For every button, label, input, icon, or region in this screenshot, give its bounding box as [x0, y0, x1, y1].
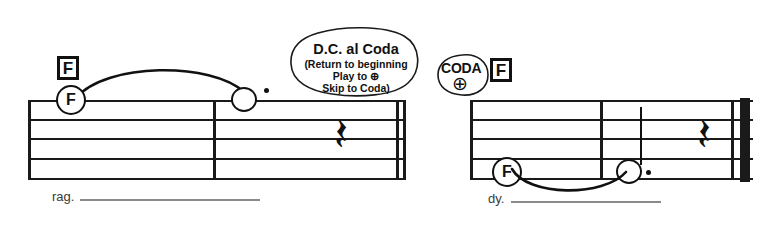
- sheet-music-page: F F 𝄽 rag. D.C. al Coda (Return to begin…: [0, 0, 781, 226]
- left-staff: [28, 100, 405, 180]
- final-barline-thin: [731, 100, 734, 180]
- staff-start-barline: [28, 100, 31, 180]
- note-stem-right: [640, 107, 642, 165]
- bubble-lines: (Return to beginning Play to ⊕ Skip to C…: [288, 58, 424, 94]
- bubble-line-2: Play to ⊕: [288, 70, 424, 82]
- augmentation-dot-left: [264, 88, 269, 93]
- lyric-extender-right: [511, 201, 661, 203]
- coda-sign-glyph: ⊕: [452, 72, 468, 94]
- end-barline-thin-1: [396, 100, 399, 180]
- lyric-left-text: rag.: [52, 189, 74, 204]
- lyric-right: dy.: [488, 191, 504, 206]
- lyric-extender-left: [80, 199, 260, 201]
- quarter-rest-right: 𝄽: [697, 111, 711, 157]
- bubble-line-3: Skip to Coda): [288, 82, 424, 94]
- bubble-title: D.C. al Coda: [288, 41, 424, 57]
- measure-barline: [213, 100, 216, 180]
- half-notehead-left: [231, 87, 257, 112]
- coda-sign-icon: ⊕: [452, 74, 468, 93]
- quarter-rest-glyph: 𝄽: [334, 107, 348, 161]
- staff-line: [28, 178, 405, 180]
- staff-line: [28, 158, 405, 160]
- augmentation-dot-right: [646, 170, 651, 175]
- lyric-right-text: dy.: [488, 191, 504, 206]
- slur-left: [70, 58, 250, 100]
- bubble-title-text: D.C. al Coda: [313, 41, 398, 57]
- end-barline-thin-2: [403, 100, 406, 180]
- bubble-line-1: (Return to beginning: [288, 58, 424, 70]
- staff-start-barline: [470, 100, 473, 180]
- lyric-left: rag.: [52, 189, 74, 204]
- chord-symbol-label: F: [496, 62, 506, 79]
- staff-line: [28, 119, 405, 121]
- slur-right: [508, 167, 630, 199]
- staff-line: [28, 138, 405, 140]
- quarter-rest-glyph: 𝄽: [697, 107, 711, 161]
- chord-symbol-box-coda: F: [490, 58, 512, 82]
- staff-line: [470, 100, 753, 102]
- quarter-rest-left: 𝄽: [334, 111, 348, 157]
- circled-note-left: F: [56, 85, 86, 115]
- circled-note-label: F: [66, 91, 76, 109]
- final-barline-thick: [740, 98, 750, 182]
